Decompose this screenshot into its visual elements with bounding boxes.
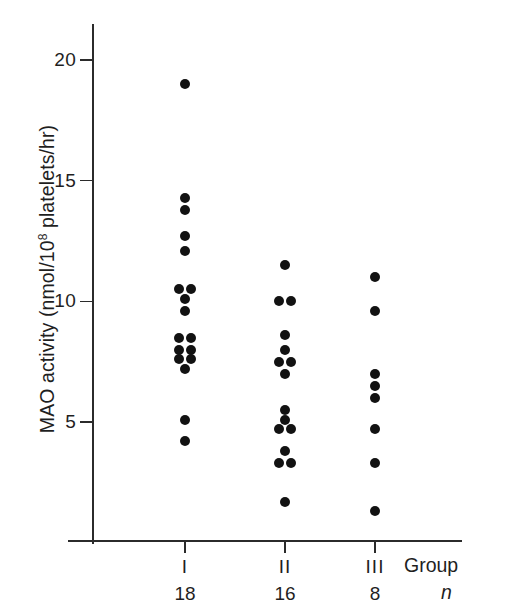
data-point	[186, 354, 196, 364]
x-tick-II	[284, 540, 286, 553]
y-tick-label-5: 5	[40, 412, 76, 431]
y-axis-title-prefix: MAO activity (nmol/10	[36, 240, 58, 433]
group-axis-name: Group	[404, 555, 458, 576]
y-axis-title-superscript: 8	[36, 234, 50, 241]
data-point	[370, 506, 380, 516]
x-group-label-II: II	[255, 556, 315, 577]
x-tick-I	[184, 540, 186, 553]
data-point	[370, 458, 380, 468]
data-point	[280, 415, 290, 425]
data-point	[180, 79, 190, 89]
y-tick-label-15: 15	[40, 171, 76, 190]
data-point	[186, 345, 196, 355]
x-n-label-II: 16	[255, 583, 315, 604]
data-point	[186, 284, 196, 294]
x-n-label-III: 8	[345, 583, 405, 604]
data-point	[180, 205, 190, 215]
x-tick-III	[374, 540, 376, 553]
data-point	[180, 231, 190, 241]
data-point	[280, 497, 290, 507]
x-n-label-I: 18	[155, 583, 215, 604]
data-point	[280, 345, 290, 355]
y-tick-label-text: 5	[48, 412, 76, 431]
x-group-label-I: I	[155, 556, 215, 577]
data-point	[180, 193, 190, 203]
data-point	[370, 424, 380, 434]
y-tick-15	[80, 180, 92, 182]
y-tick-label-10: 10	[40, 291, 76, 310]
data-point	[274, 296, 284, 306]
data-point	[180, 246, 190, 256]
data-point	[174, 354, 184, 364]
data-point	[370, 381, 380, 391]
data-point	[274, 458, 284, 468]
y-tick-label-text: 20	[48, 50, 76, 69]
data-point	[274, 424, 284, 434]
data-point	[280, 260, 290, 270]
data-point	[274, 357, 284, 367]
data-point	[180, 415, 190, 425]
data-point	[370, 306, 380, 316]
data-point	[180, 364, 190, 374]
y-tick-label-20: 20	[40, 50, 76, 69]
y-tick-10	[80, 301, 92, 303]
y-axis-line	[92, 24, 94, 544]
data-point	[286, 296, 296, 306]
data-point	[280, 446, 290, 456]
y-tick-5	[80, 421, 92, 423]
data-point	[370, 393, 380, 403]
data-point	[286, 357, 296, 367]
data-point	[174, 333, 184, 343]
x-group-label-III: III	[345, 556, 405, 577]
data-point	[280, 369, 290, 379]
y-tick-label-text: 10	[48, 291, 76, 310]
data-point	[180, 436, 190, 446]
data-point	[174, 284, 184, 294]
y-tick-20	[80, 59, 92, 61]
x-axis-line	[68, 540, 462, 542]
data-point	[280, 330, 290, 340]
data-point	[370, 272, 380, 282]
data-point	[286, 424, 296, 434]
data-point	[174, 345, 184, 355]
data-point	[370, 369, 380, 379]
mao-activity-dot-plot: MAO activity (nmol/108 platelets/hr) 510…	[0, 0, 520, 616]
data-point	[280, 405, 290, 415]
n-axis-name: n	[441, 582, 452, 603]
data-point	[180, 306, 190, 316]
data-point	[180, 294, 190, 304]
data-point	[186, 333, 196, 343]
data-point	[286, 458, 296, 468]
y-tick-label-text: 15	[48, 171, 76, 190]
y-axis-title: MAO activity (nmol/108 platelets/hr)	[36, 44, 58, 514]
